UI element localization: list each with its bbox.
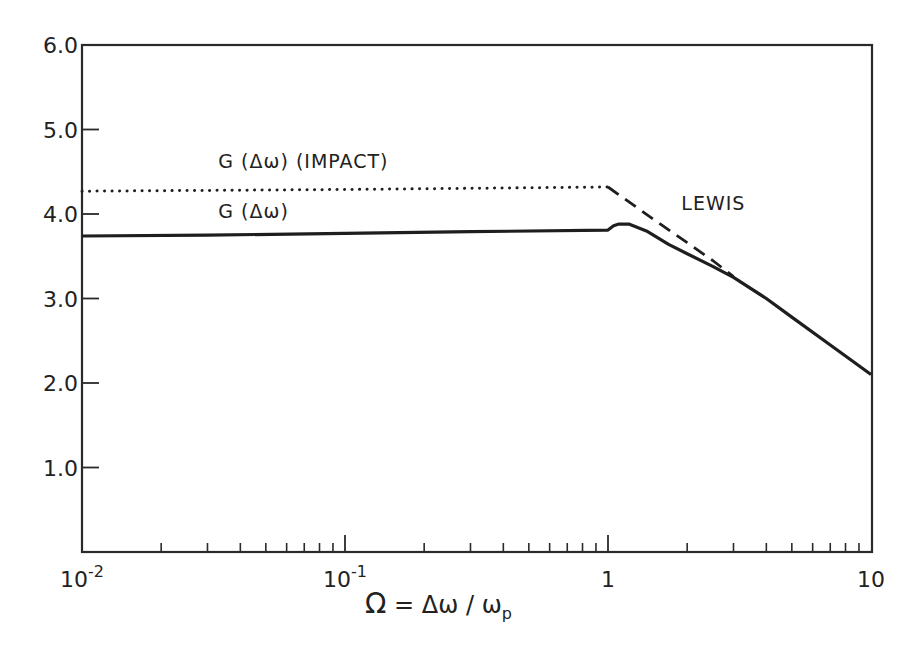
x-tick-label: 1 [601, 567, 615, 592]
y-tick-label: 1.0 [43, 456, 78, 481]
x-tick-label: 10-2 [60, 562, 104, 592]
y-tick-label: 6.0 [43, 33, 78, 58]
annotation-label: G (Δω) (IMPACT) [218, 150, 388, 172]
x-tick-label: 10-1 [323, 562, 367, 592]
annotations: G (Δω) (IMPACT)G (Δω)LEWIS [218, 150, 745, 223]
chart: 1.02.03.04.05.06.0 10-210-1110 G (Δω) (I… [0, 0, 922, 650]
plot-frame [82, 45, 872, 552]
annotation-label: G (Δω) [218, 200, 289, 222]
series-solid [82, 224, 871, 374]
x-tick-label: 10 [857, 567, 885, 592]
x-axis-label: Ω = Δω / ωp [365, 587, 512, 623]
y-axis-ticks: 1.02.03.04.05.06.0 [43, 33, 99, 481]
y-tick-label: 4.0 [43, 202, 78, 227]
series-dotted [82, 187, 608, 191]
y-tick-label: 5.0 [43, 118, 78, 143]
annotation-label: LEWIS [681, 192, 745, 214]
x-axis-ticks: 10-210-1110 [60, 535, 885, 592]
y-tick-label: 2.0 [43, 371, 78, 396]
y-tick-label: 3.0 [43, 287, 78, 312]
series-lines [82, 187, 871, 375]
